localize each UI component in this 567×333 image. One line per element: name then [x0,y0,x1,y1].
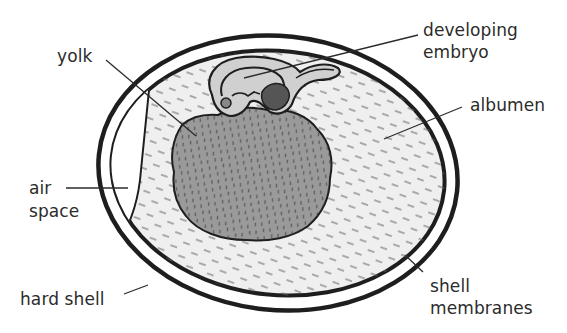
label-shell-membranes-line2: membranes [430,298,533,318]
label-air-space-line2: space [29,201,79,221]
label-yolk: yolk [57,46,92,66]
label-developing-embryo-line2: embryo [423,42,489,62]
label-shell-membranes-line1: shell [430,276,470,296]
hard-shell-leader [124,285,148,294]
embryo-head [221,98,231,108]
label-hard-shell: hard shell [20,289,105,309]
label-albumen: albumen [470,95,545,115]
yolk-texture [172,108,331,241]
label-air-space-line1: air [29,178,51,198]
label-developing-embryo-line1: developing [423,20,518,40]
